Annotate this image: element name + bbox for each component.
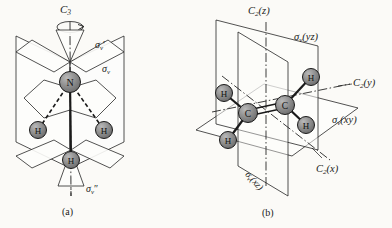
atom-h-upper-left: H — [216, 85, 233, 102]
label-sigma-v-prime: σv′ — [95, 40, 105, 52]
atom-c2-label: C — [282, 101, 288, 111]
label-c3-axis: C3 — [60, 4, 71, 17]
atom-h-left: H — [30, 122, 47, 139]
panel-a-nh3: N H H H — [16, 22, 124, 197]
panel-b-caption: (b) — [262, 207, 274, 218]
label-sigma-v-xy: σv(xy) — [332, 115, 357, 127]
label-sigma-v-double-prime: σv″ — [86, 184, 98, 196]
atom-h-front-label: H — [68, 156, 75, 166]
bond-n-h-front — [70, 82, 71, 160]
label-c2-y: C2(y) — [353, 78, 375, 90]
atom-h-lower-right-label: H — [303, 121, 310, 131]
atom-c1: C — [239, 104, 258, 123]
label-sigma-v-yz: σv(yz) — [294, 32, 318, 44]
atom-n: N — [60, 72, 81, 93]
atom-h-lower-left: H — [220, 132, 237, 149]
atom-n-label: N — [66, 77, 73, 88]
atom-h-right-label: H — [101, 126, 108, 136]
label-sigma-v: σv — [102, 64, 110, 76]
atom-h-upper-left-label: H — [221, 89, 228, 99]
atom-h-lower-left-label: H — [225, 136, 232, 146]
label-c2-x: C2(x) — [316, 164, 338, 176]
atom-h-front: H — [63, 152, 80, 169]
atom-h-lower-right: H — [298, 117, 315, 134]
atom-h-upper-right-label: H — [308, 73, 315, 83]
atom-h-left-label: H — [35, 126, 42, 136]
atom-c1-label: C — [245, 109, 251, 119]
c2-y-leader-line — [338, 84, 352, 86]
atom-h-upper-right: H — [303, 69, 320, 86]
atom-c2: C — [276, 96, 295, 115]
label-c2-z: C2(z) — [248, 6, 270, 18]
panel-a-caption: (a) — [62, 206, 73, 217]
atom-h-right: H — [96, 122, 113, 139]
